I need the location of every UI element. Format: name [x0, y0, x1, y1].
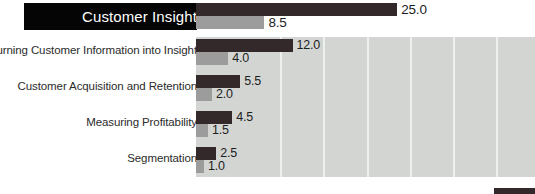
bar-value-label: 5.5 [244, 74, 261, 88]
bar-light [196, 16, 264, 29]
gridline-2 [367, 37, 369, 177]
gridline-4 [453, 37, 455, 177]
bar-value-label: 4.0 [232, 51, 249, 65]
bar-value-label: 2.5 [220, 146, 237, 160]
bar-light [196, 124, 208, 137]
bar-light [196, 52, 228, 65]
bar-light [196, 88, 212, 101]
legend-swatch-dark [494, 188, 535, 194]
category-label: Customer Acquisition and Retention [18, 80, 197, 92]
bar-value-label: 2.0 [216, 87, 233, 101]
category-label: Measuring Profitability [86, 116, 197, 128]
bar-value-label: 4.5 [236, 110, 253, 124]
gridline-0 [280, 37, 282, 177]
gridline-1 [323, 37, 325, 177]
bar-dark [196, 3, 397, 16]
gridline-5 [496, 37, 498, 177]
bar-value-label: 8.5 [268, 15, 286, 30]
bar-value-label: 12.0 [297, 38, 321, 52]
bar-chart-figure: Customer Insight25.08.5Turning Customer … [0, 0, 535, 194]
category-label: Customer Insight [82, 8, 197, 25]
gridline-3 [410, 37, 412, 177]
legend-strip [196, 177, 535, 194]
bar-value-label: 1.0 [208, 159, 225, 173]
bar-light [196, 160, 204, 173]
category-label: Turning Customer Information into Insigh… [0, 44, 197, 56]
bar-value-label: 1.5 [212, 123, 229, 137]
category-label: Segmentation [127, 152, 197, 164]
bar-value-label: 25.0 [401, 2, 426, 17]
